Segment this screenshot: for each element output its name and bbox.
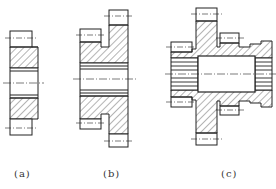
- figure-c: [165, 8, 276, 145]
- hatched-section-top: [10, 47, 38, 68]
- hatched-section-bottom: [10, 98, 38, 119]
- small-gear-tooth-bottom: [80, 119, 101, 129]
- large-gear-tooth-bottom: [109, 134, 128, 147]
- figure-a: [3, 31, 44, 135]
- label-b: (b): [103, 168, 120, 179]
- center-gear-tooth-top: [196, 8, 217, 21]
- gear-tooth-bottom: [10, 119, 32, 135]
- figure-b: [73, 10, 136, 147]
- large-gear-tooth-top: [109, 10, 128, 25]
- gear-sections-drawing: [0, 0, 276, 189]
- label-c: (c): [221, 168, 237, 179]
- bore: [80, 63, 128, 96]
- small-gear-tooth-top: [80, 29, 101, 42]
- gear-tooth-top: [10, 31, 32, 47]
- right-gear-tooth-bottom: [220, 106, 239, 115]
- label-a: (a): [14, 168, 31, 179]
